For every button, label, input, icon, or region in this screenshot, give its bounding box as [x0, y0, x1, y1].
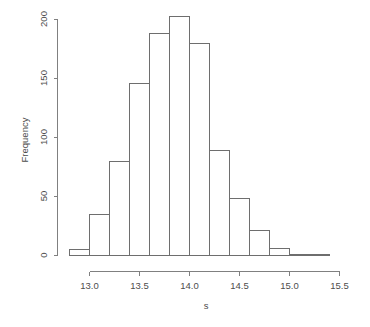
y-tick-label-0: 0: [38, 252, 49, 257]
x-tick-label-14-0: 14.0: [180, 280, 199, 291]
x-tick-label-13-5: 13.5: [130, 280, 149, 291]
y-tick-label-150: 150: [38, 70, 49, 86]
chart-background: [0, 0, 370, 327]
histogram-plot-container: 0 50 100 150 200 Frequency 13.0 13.5 14.…: [0, 0, 370, 327]
histogram-bar: [290, 255, 310, 256]
x-tick-label-13-0: 13.0: [80, 280, 99, 291]
x-axis-title: s: [204, 300, 209, 311]
y-tick-label-200: 200: [38, 11, 49, 27]
y-tick-label-100: 100: [38, 129, 49, 145]
x-tick-label-15-5: 15.5: [330, 280, 349, 291]
y-tick-label-50: 50: [38, 191, 49, 202]
y-axis-title: Frequency: [19, 117, 30, 162]
histogram-chart: 0 50 100 150 200 Frequency 13.0 13.5 14.…: [0, 0, 370, 327]
x-tick-label-14-5: 14.5: [230, 280, 249, 291]
x-tick-label-15-0: 15.0: [280, 280, 299, 291]
